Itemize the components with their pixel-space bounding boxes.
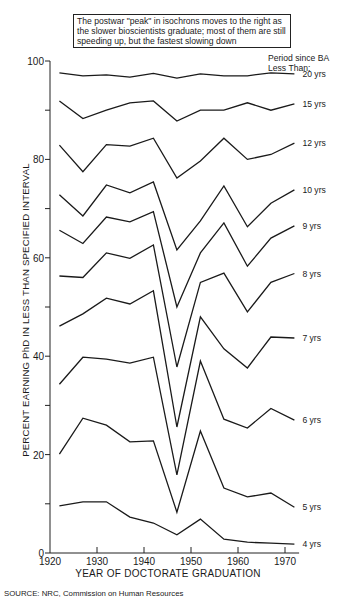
series-line-4-yrs <box>59 502 294 544</box>
series-line-10-yrs <box>59 182 294 250</box>
y-tick-label: 40 <box>33 351 45 362</box>
series-label-20-yrs: 20 yrs <box>302 69 325 79</box>
x-tick-label: 1950 <box>180 556 203 567</box>
x-tick-label: 1930 <box>86 556 109 567</box>
series-label-12-yrs: 12 yrs <box>302 138 325 148</box>
series-label-5-yrs: 5 yrs <box>302 502 321 512</box>
line-chart: 020406080100192019301940195019601970 20 … <box>0 0 342 607</box>
chart-axes: 020406080100192019301940195019601970 <box>27 56 299 567</box>
x-tick-label: 1920 <box>39 556 62 567</box>
series-label-4-yrs: 4 yrs <box>302 539 321 549</box>
chart-series <box>59 73 294 544</box>
y-tick-label: 100 <box>27 56 44 67</box>
y-tick-label: 60 <box>33 253 45 264</box>
series-label-15-yrs: 15 yrs <box>302 99 325 109</box>
series-line-7-yrs <box>59 291 294 427</box>
x-tick-label: 1960 <box>227 556 250 567</box>
series-line-5-yrs <box>59 418 294 512</box>
series-label-10-yrs: 10 yrs <box>302 185 325 195</box>
x-tick-label: 1970 <box>274 556 297 567</box>
series-line-15-yrs <box>59 101 294 121</box>
series-line-6-yrs <box>59 357 294 475</box>
y-tick-label: 80 <box>33 154 45 165</box>
series-label-6-yrs: 6 yrs <box>302 415 321 425</box>
series-line-12-yrs <box>59 138 294 178</box>
series-line-9-yrs <box>59 212 294 307</box>
series-line-20-yrs <box>59 73 294 78</box>
source-note: SOURCE: NRC, Commission on Human Resourc… <box>4 589 183 598</box>
series-label-9-yrs: 9 yrs <box>302 221 321 231</box>
y-axis-label: PERCENT EARNING PhD IN LESS THAN SPECIFI… <box>20 163 31 457</box>
x-axis-label: YEAR OF DOCTORATE GRADUATION <box>75 568 261 579</box>
series-label-7-yrs: 7 yrs <box>302 333 321 343</box>
y-tick-label: 20 <box>33 450 45 461</box>
series-labels: 20 yrs15 yrs12 yrs10 yrs9 yrs8 yrs7 yrs6… <box>302 69 325 549</box>
series-label-8-yrs: 8 yrs <box>302 269 321 279</box>
x-tick-label: 1940 <box>133 556 156 567</box>
